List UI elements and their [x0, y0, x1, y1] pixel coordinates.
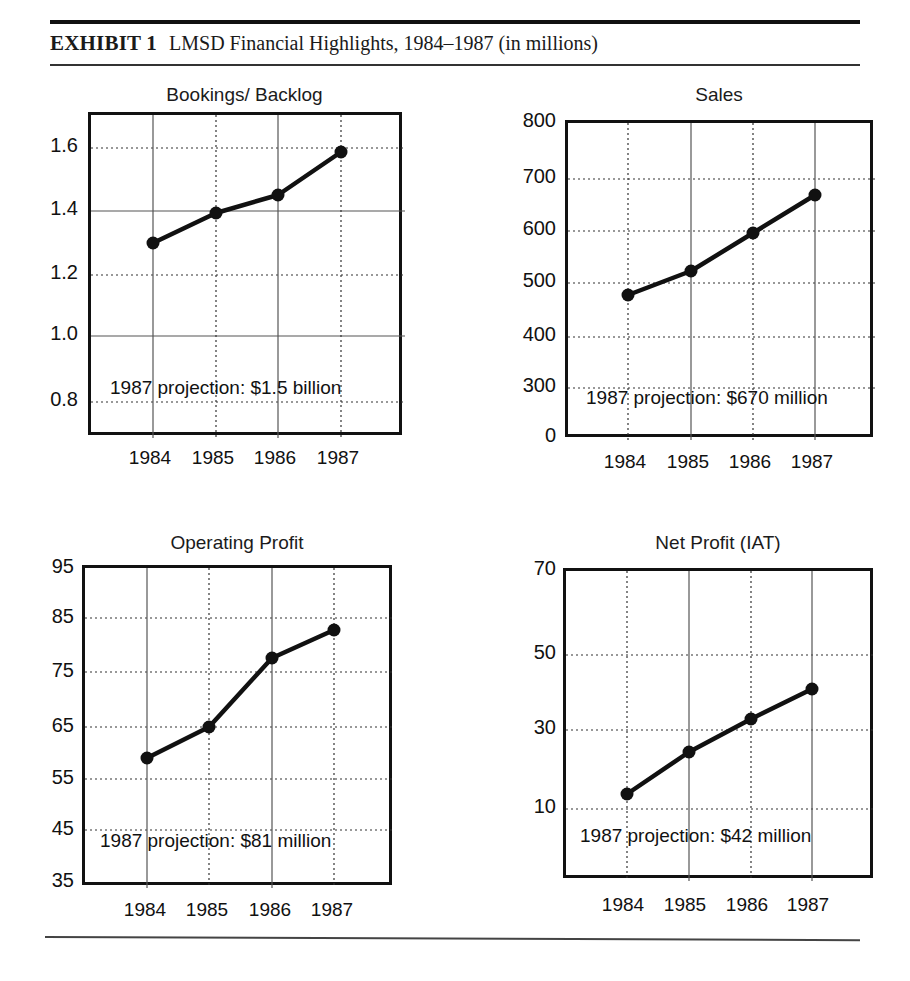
x-tick-label: 1985 [655, 895, 715, 915]
x-tick-label: 1984 [595, 452, 655, 472]
y-tick-label: 10 [498, 796, 556, 816]
chart-annotation-bookings: 1987 projection: $1.5 billion [110, 377, 341, 399]
chart-annotation-net-profit: 1987 projection: $42 million [580, 825, 811, 847]
y-tick-label: 1.0 [18, 323, 78, 343]
chart-title-net-profit: Net Profit (IAT) [563, 532, 873, 554]
chart-title-operating-profit: Operating Profit [82, 532, 392, 554]
y-tick-label: 85 [12, 606, 74, 626]
exhibit-bottom-rule [45, 936, 860, 941]
exhibit-header: EXHIBIT 1LMSD Financial Highlights, 1984… [50, 20, 860, 66]
exhibit-caption: LMSD Financial Highlights, 1984–1987 (in… [157, 32, 598, 54]
y-tick-label: 0.8 [18, 389, 78, 409]
y-tick-label: 600 [478, 218, 556, 238]
y-tick-label: 1.6 [18, 135, 78, 155]
x-tick-label: 1986 [240, 900, 300, 920]
x-tick-label: 1985 [183, 448, 243, 468]
chart-net-profit: Net Profit (IAT) 70 50 30 10 1987 projec… [470, 520, 910, 930]
x-tick-label: 1984 [593, 895, 653, 915]
x-tick-label: 1984 [115, 900, 175, 920]
chart-sales: Sales 800 700 600 500 400 300 0 1987 pro… [470, 80, 910, 480]
x-tick-label: 1987 [782, 452, 842, 472]
y-tick-label: 500 [478, 270, 556, 290]
chart-title-sales: Sales [565, 84, 873, 106]
x-tick-label: 1986 [245, 448, 305, 468]
y-tick-label: 800 [478, 110, 556, 130]
chart-annotation-sales: 1987 projection: $670 million [586, 387, 828, 409]
chart-title-bookings: Bookings/ Backlog [88, 84, 401, 106]
x-tick-label: 1985 [177, 900, 237, 920]
y-tick-label: 30 [498, 717, 556, 737]
x-tick-label: 1987 [778, 895, 838, 915]
y-tick-label: 75 [12, 660, 74, 680]
y-tick-label: 50 [498, 642, 556, 662]
y-tick-label: 35 [12, 870, 74, 890]
y-tick-label: 300 [478, 375, 556, 395]
exhibit-title-row: EXHIBIT 1LMSD Financial Highlights, 1984… [50, 24, 860, 64]
y-tick-label: 1.4 [18, 198, 78, 218]
x-tick-label: 1987 [308, 448, 368, 468]
y-tick-label: 70 [498, 558, 556, 578]
y-tick-label: 700 [478, 166, 556, 186]
chart-bookings-backlog: Bookings/ Backlog 1.6 1.4 1.2 1.0 0.8 19… [0, 80, 455, 480]
y-tick-label: 45 [12, 818, 74, 838]
x-tick-label: 1985 [658, 452, 718, 472]
x-tick-label: 1987 [302, 900, 362, 920]
y-tick-label: 55 [12, 767, 74, 787]
y-tick-label: 400 [478, 324, 556, 344]
y-tick-label: 1.2 [18, 262, 78, 282]
x-tick-label: 1986 [720, 452, 780, 472]
chart-annotation-operating-profit: 1987 projection: $81 million [100, 830, 331, 852]
chart-operating-profit: Operating Profit 95 85 75 65 55 45 35 19… [0, 520, 455, 930]
y-tick-label: 95 [12, 556, 74, 576]
y-tick-label: 0 [478, 425, 556, 445]
header-bottom-rule [50, 64, 860, 66]
y-tick-label: 65 [12, 715, 74, 735]
x-tick-label: 1986 [717, 895, 777, 915]
exhibit-label: EXHIBIT 1 [50, 31, 157, 55]
x-tick-label: 1984 [120, 448, 180, 468]
